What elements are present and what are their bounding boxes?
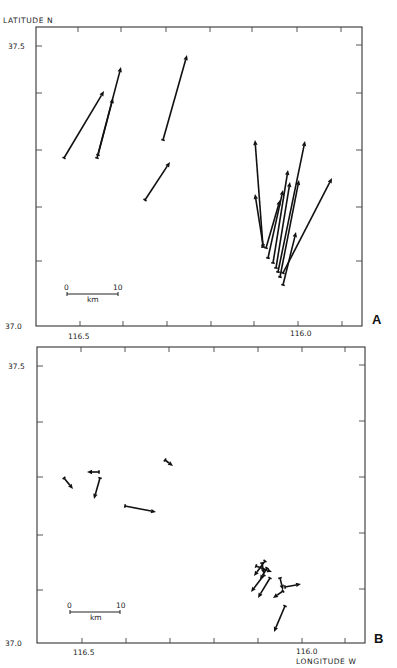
panel-a-frame [36, 27, 362, 326]
arrowhead-icon [287, 182, 291, 187]
arrowhead-icon [293, 232, 297, 237]
vector-tail-tick [274, 268, 278, 269]
panel-b-scale-ten: 10 [116, 601, 126, 610]
displacement-vector [95, 478, 100, 494]
panel-a-lon-116-5-label: 116.5 [68, 332, 90, 341]
vector-tail-tick [276, 272, 280, 273]
panel-b-lat-37-0-label: 37.0 [5, 639, 22, 648]
arrowhead-icon [302, 141, 306, 146]
vector-tail-tick [264, 247, 267, 248]
vector-tail-tick [278, 578, 281, 579]
arrowhead-icon [296, 583, 301, 587]
displacement-vector [261, 578, 270, 594]
panel-a-scale-unit: km [87, 295, 99, 304]
vector-tail-tick [95, 158, 98, 159]
displacement-vector [277, 591, 283, 595]
arrowhead-icon [151, 509, 156, 513]
vector-tail-tick [261, 245, 265, 246]
arrowhead-icon [253, 140, 257, 145]
panel-b-scale-unit: km [90, 613, 102, 622]
panel-b-lat-37-5-label: 37.5 [8, 362, 25, 371]
arrowhead-icon [280, 585, 284, 590]
displacement-vector [276, 606, 285, 627]
vector-tail-tick [125, 504, 126, 508]
vector-tail-tick [285, 585, 286, 589]
panel-a-scale-zero: 0 [64, 283, 69, 292]
displacement-vector [163, 60, 186, 140]
vector-tail-tick [271, 263, 275, 264]
displacement-vector [280, 578, 282, 585]
figure: LATITUDE N 37.5 37.0 116.5 116.0 A 37.5 … [0, 0, 397, 668]
displacement-vector [262, 563, 263, 569]
arrowhead-icon [118, 67, 122, 72]
displacement-vector [285, 585, 296, 587]
vector-tail-tick [281, 285, 284, 286]
vector-tail-tick [260, 563, 264, 564]
panel-b-lon-116-5-label: 116.5 [73, 648, 95, 657]
panel-a-lat-37-0-label: 37.0 [5, 322, 22, 331]
vector-tail-tick [278, 277, 282, 278]
y-axis-title: LATITUDE N [3, 16, 53, 25]
x-axis-title: LONGITUDE W [296, 657, 356, 666]
panel-a-letter: A [372, 312, 382, 327]
vector-tail-tick [98, 478, 101, 479]
arrowhead-icon [93, 494, 97, 499]
displacement-vector [98, 103, 112, 155]
arrowhead-icon [184, 55, 188, 60]
vector-tail-tick [161, 140, 164, 141]
vector-tail-tick [255, 564, 256, 567]
panel-a-scale-ten: 10 [113, 283, 123, 292]
panel-b-scale-zero: 0 [67, 601, 72, 610]
vector-tail-tick [96, 155, 99, 156]
vector-tail-tick [266, 258, 270, 259]
displacement-vector [254, 575, 264, 588]
panel-b-letter: B [374, 631, 383, 646]
panel-b-lon-116-0-label: 116.0 [296, 647, 318, 656]
panel-a-lat-37-5-label: 37.5 [8, 42, 25, 51]
displacement-vector [125, 506, 151, 511]
panel-b-frame [37, 347, 365, 643]
displacement-vector [145, 166, 167, 200]
displacement-vector [64, 95, 101, 158]
displacement-vector [255, 145, 263, 247]
arrowhead-icon [254, 194, 258, 199]
displacement-vector [64, 478, 70, 485]
panel-a-lon-116-0-label: 116.0 [290, 329, 312, 338]
arrowhead-icon [285, 170, 289, 175]
vector-tail-tick [283, 605, 286, 606]
arrowhead-icon [87, 470, 92, 474]
